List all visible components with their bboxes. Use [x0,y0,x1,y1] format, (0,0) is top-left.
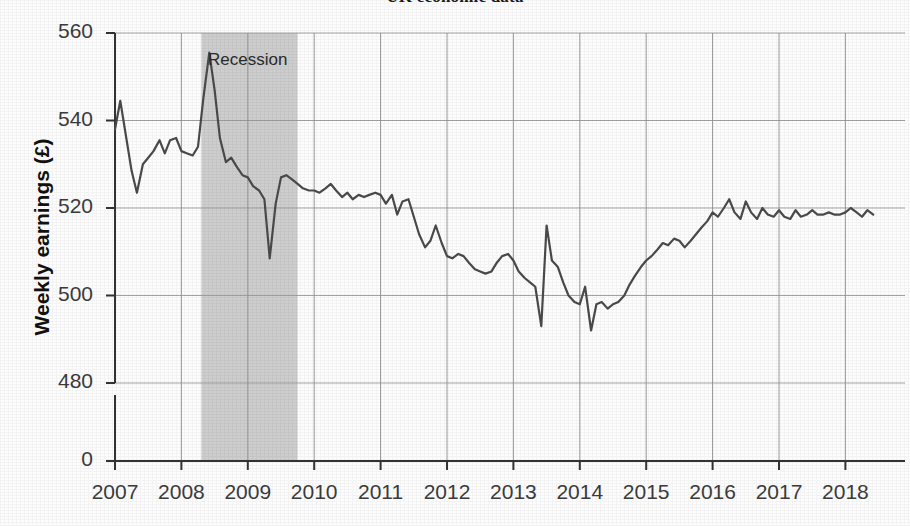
plot-canvas [0,0,910,526]
x-tick-label: 2018 [810,480,880,504]
y-tick-label: 540 [37,107,93,131]
y-tick-label: 480 [37,369,93,393]
x-tick-label: 2016 [678,480,748,504]
x-tick-label: 2017 [744,480,814,504]
y-tick-label: 500 [37,282,93,306]
x-tick-label: 2007 [80,480,150,504]
recession-annotation-label: Recession [208,50,287,70]
y-tick-label: 520 [37,194,93,218]
x-tick-label: 2015 [611,480,681,504]
y-tick-label: 0 [37,447,93,471]
x-tick-label: 2012 [412,480,482,504]
x-tick-label: 2009 [213,480,283,504]
x-tick-label: 2011 [346,480,416,504]
y-tick-label: 560 [37,19,93,43]
x-tick-label: 2008 [146,480,216,504]
x-tick-label: 2014 [545,480,615,504]
chart-figure: UK economic data Weekly earnings (£) Rec… [0,0,910,526]
x-tick-label: 2010 [279,480,349,504]
x-tick-label: 2013 [478,480,548,504]
